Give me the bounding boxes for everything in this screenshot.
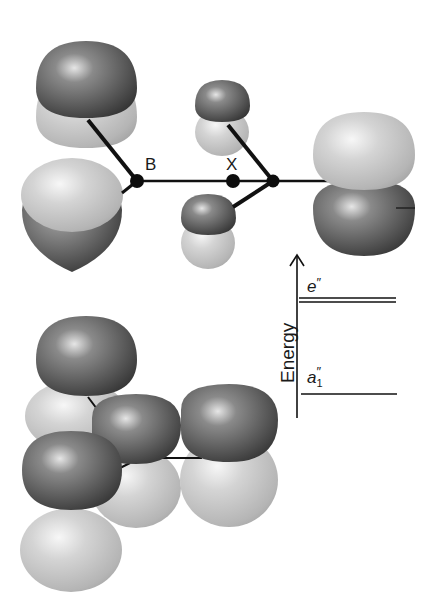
- level-e-label: e″: [307, 275, 321, 296]
- level-a1-label: a1″: [307, 364, 323, 389]
- bottom-orbital-a1-double-prime: [20, 316, 278, 592]
- right-atom: [267, 175, 280, 188]
- center-label: X: [226, 155, 237, 174]
- boron-label: B: [145, 155, 156, 174]
- energy-axis-label: Energy: [277, 322, 298, 383]
- orbital-diagram: B X Energy e″ a1″: [0, 0, 440, 599]
- middle-orbital-lobes: [181, 80, 250, 269]
- center-atom-x: [226, 174, 240, 188]
- right-orbital-lobes: [313, 112, 415, 256]
- energy-level-diagram: Energy e″ a1″: [277, 255, 397, 418]
- boron-atom: [130, 174, 144, 188]
- top-orbital-e-double-prime: B X: [21, 41, 415, 272]
